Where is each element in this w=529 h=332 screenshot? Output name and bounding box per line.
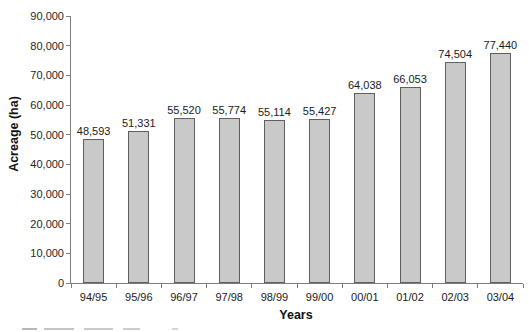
y-tick-label: 30,000 <box>6 187 64 201</box>
y-axis-tick <box>66 75 70 76</box>
bar <box>174 118 195 283</box>
y-tick-label: 10,000 <box>6 246 64 260</box>
bar-value-label: 55,774 <box>212 104 246 116</box>
bar-chart-figure: Acreage (ha) 010,00020,00030,00040,00050… <box>0 0 529 332</box>
bar <box>219 118 240 283</box>
x-tick-label: 01/02 <box>387 291 432 303</box>
y-axis-tick <box>66 194 70 195</box>
bar-value-label: 51,331 <box>122 117 156 129</box>
bar-value-label: 66,053 <box>393 73 427 85</box>
x-tick-label: 03/04 <box>478 291 523 303</box>
plot-area: 010,00020,00030,00040,00050,00060,00070,… <box>70 16 523 284</box>
cropped-caption-artifact <box>22 328 190 330</box>
x-tick-label: 95/96 <box>116 291 161 303</box>
y-axis-tick <box>66 283 70 284</box>
bar-value-label: 77,440 <box>484 39 518 51</box>
x-tick-label: 00/01 <box>342 291 387 303</box>
bar-value-label: 55,520 <box>167 104 201 116</box>
y-tick-label: 70,000 <box>6 68 64 82</box>
x-axis-tick <box>116 284 117 288</box>
x-axis-tick <box>432 284 433 288</box>
x-axis-tick <box>251 284 252 288</box>
bar <box>128 131 149 283</box>
y-tick-label: 50,000 <box>6 128 64 142</box>
bar-value-label: 64,038 <box>348 79 382 91</box>
x-tick-label: 97/98 <box>207 291 252 303</box>
bar <box>400 87 421 283</box>
x-tick-label: 94/95 <box>71 291 116 303</box>
bar <box>490 53 511 283</box>
y-tick-label: 60,000 <box>6 98 64 112</box>
x-axis-tick <box>206 284 207 288</box>
bar-value-label: 55,427 <box>303 105 337 117</box>
x-axis-tick <box>297 284 298 288</box>
y-axis-tick <box>66 134 70 135</box>
x-tick-label: 96/97 <box>161 291 206 303</box>
bar <box>354 93 375 283</box>
x-tick-label: 98/99 <box>252 291 297 303</box>
y-tick-label: 80,000 <box>6 39 64 53</box>
y-axis-tick <box>66 105 70 106</box>
x-axis-tick <box>523 284 524 288</box>
y-axis-tick <box>66 164 70 165</box>
bar <box>445 62 466 283</box>
bar <box>309 119 330 283</box>
y-axis-tick <box>66 223 70 224</box>
y-axis-tick <box>66 253 70 254</box>
bar <box>264 120 285 284</box>
x-axis-tick <box>71 284 72 288</box>
y-tick-label: 0 <box>6 276 64 290</box>
bar <box>83 139 104 283</box>
x-axis-tick <box>477 284 478 288</box>
x-tick-label: 02/03 <box>433 291 478 303</box>
x-axis-tick <box>387 284 388 288</box>
x-axis-tick <box>342 284 343 288</box>
y-tick-label: 40,000 <box>6 157 64 171</box>
x-axis-title: Years <box>279 308 312 322</box>
y-axis-tick <box>66 45 70 46</box>
bar-value-label: 74,504 <box>438 48 472 60</box>
x-tick-label: 99/00 <box>297 291 342 303</box>
bar-value-label: 55,114 <box>258 106 291 118</box>
y-tick-label: 90,000 <box>6 9 64 23</box>
bar-value-label: 48,593 <box>77 125 111 137</box>
y-axis-tick <box>66 16 70 17</box>
y-tick-label: 20,000 <box>6 217 64 231</box>
x-axis-tick <box>161 284 162 288</box>
